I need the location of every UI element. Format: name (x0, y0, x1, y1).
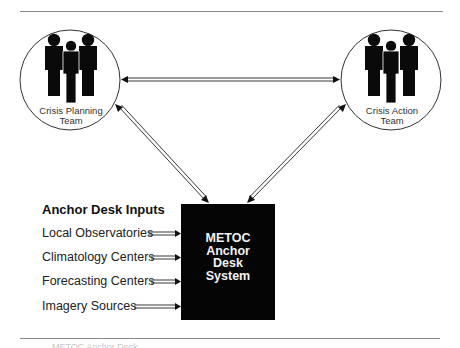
people-group-icon (45, 34, 97, 103)
crisis-planning-team-label: Crisis Planning Team (32, 106, 110, 126)
input-climatology-centers: Climatology Centers (42, 250, 155, 264)
input-arrow-climatology-centers (151, 254, 181, 261)
planning-action-arrow (121, 76, 340, 83)
anchor-desk-inputs-title: Anchor Desk Inputs (42, 202, 165, 217)
metoc-anchor-desk-system-box: METOC Anchor Desk System (181, 204, 275, 320)
input-arrows (134, 230, 181, 310)
system-label: METOC Anchor Desk System (181, 232, 275, 282)
figure-caption-partial: ... METOC Anchor Desk ... (42, 342, 148, 348)
input-local-observatories: Local Observatories (42, 226, 153, 240)
people-group-icon (365, 34, 418, 103)
input-arrow-imagery-sources (134, 303, 181, 310)
input-arrow-forecasting-centers (151, 278, 181, 285)
action-system-arrow (247, 104, 346, 203)
input-forecasting-centers: Forecasting Centers (42, 274, 155, 288)
planning-system-arrow (115, 104, 209, 203)
crisis-action-team-label: Crisis Action Team (353, 106, 431, 126)
input-imagery-sources: Imagery Sources (42, 299, 136, 313)
